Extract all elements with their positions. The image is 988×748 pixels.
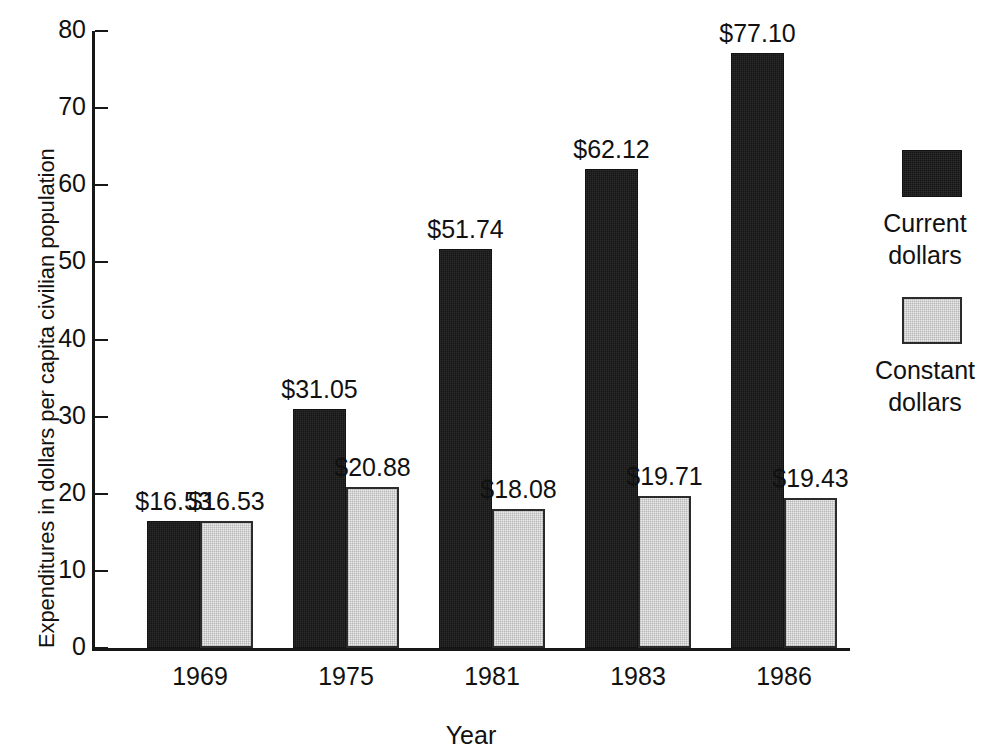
legend-label-constant-line1: Constant <box>875 356 975 384</box>
bar-1983-current <box>585 169 638 648</box>
y-tick-80: 80 <box>95 30 108 32</box>
x-axis-title: Year <box>92 723 850 748</box>
bar-1986-constant <box>784 498 837 648</box>
x-tick-label-1969: 1969 <box>172 664 228 689</box>
bar-1981-constant <box>492 509 545 648</box>
bar-1975-constant <box>346 487 399 648</box>
y-tick-20: 20 <box>95 493 108 495</box>
y-tick-label-30: 30 <box>26 403 86 428</box>
bar-1981-current <box>439 249 492 648</box>
y-tick-label-70: 70 <box>26 94 86 119</box>
bar-value-label-1981-constant: $18.08 <box>480 477 556 502</box>
y-tick-40: 40 <box>95 339 108 341</box>
bar-1969-current <box>147 521 200 648</box>
y-tick-label-0: 0 <box>26 634 86 659</box>
bar-value-label-1975-constant: $20.88 <box>334 455 410 480</box>
y-tick-50: 50 <box>95 261 108 263</box>
x-tick-label-1975: 1975 <box>318 664 374 689</box>
x-axis-line <box>92 648 850 651</box>
x-tick-label-1986: 1986 <box>756 664 812 689</box>
bar-1983-constant <box>638 496 691 648</box>
legend-swatch-constant-dollars <box>902 297 962 344</box>
y-tick-label-80: 80 <box>26 17 86 42</box>
y-tick-10: 10 <box>95 570 108 572</box>
y-tick-label-50: 50 <box>26 248 86 273</box>
y-tick-label-40: 40 <box>26 326 86 351</box>
legend-label-current-dollars: Current dollars <box>862 207 988 271</box>
y-tick-label-60: 60 <box>26 171 86 196</box>
plot-area: 01020304050607080 $16.53$16.53$31.05$20.… <box>92 31 850 648</box>
bar-value-label-1969-constant: $16.53 <box>188 489 264 514</box>
bar-value-label-1983-constant: $19.71 <box>626 464 702 489</box>
y-tick-0: 0 <box>95 647 108 649</box>
y-tick-60: 60 <box>95 184 108 186</box>
bar-1986-current <box>731 53 784 648</box>
bar-value-label-1986-current: $77.10 <box>719 21 795 46</box>
legend-label-current-line2: dollars <box>862 239 988 271</box>
legend-label-current-line1: Current <box>883 209 966 237</box>
y-tick-label-20: 20 <box>26 480 86 505</box>
y-tick-label-10: 10 <box>26 557 86 582</box>
bar-1975-current <box>293 409 346 648</box>
legend-label-constant-dollars: Constant dollars <box>862 354 988 418</box>
bar-1969-constant <box>200 521 253 648</box>
x-tick-label-1981: 1981 <box>464 664 520 689</box>
legend-swatch-current-dollars <box>902 150 962 197</box>
bar-value-label-1981-current: $51.74 <box>427 217 503 242</box>
y-tick-70: 70 <box>95 107 108 109</box>
bar-value-label-1983-current: $62.12 <box>573 137 649 162</box>
bar-value-label-1986-constant: $19.43 <box>772 466 848 491</box>
legend-label-constant-line2: dollars <box>862 386 988 418</box>
bar-value-label-1975-current: $31.05 <box>281 377 357 402</box>
y-tick-30: 30 <box>95 416 108 418</box>
x-tick-label-1983: 1983 <box>610 664 666 689</box>
